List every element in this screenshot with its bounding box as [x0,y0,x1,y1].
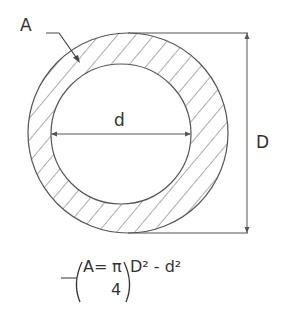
outer-diameter-label: D [256,132,269,152]
inner-diameter-label: d [114,110,125,130]
formula-pi: π [112,257,122,276]
area-label: A [20,15,32,35]
formula-lhs: A= [83,257,107,276]
formula-denominator: 4 [111,280,121,299]
formula-body: D² - d² [130,257,181,276]
